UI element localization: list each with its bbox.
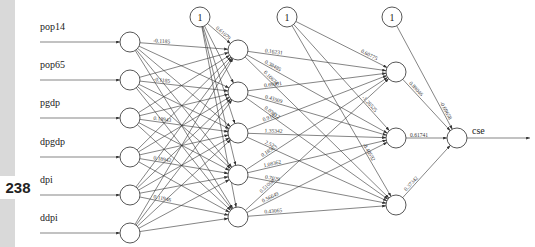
edge-bias2-h21 [294,24,390,130]
input-label-pgdp: pgdp [40,97,60,108]
edge-in2-h11 [140,94,229,115]
hidden1-node-5 [228,207,248,227]
input-label-dpgdp: dpgdp [40,136,65,147]
bias-label: 1 [198,12,203,23]
input-node-dpgdp [120,147,140,167]
edge-in5-h10 [135,59,233,225]
input-node-ddpi [120,223,140,243]
weight-label: 0.89046 [408,80,425,97]
edge-bias2-h20 [296,22,387,68]
hidden1-node-4 [228,165,248,185]
edge-in3-h13 [140,159,228,174]
weight-label: 0.18942 [153,154,172,163]
weight-label: 0.43065 [264,207,283,214]
weight-label: 1.35342 [265,127,283,134]
edge-in3-h10 [137,57,231,150]
weight-label: -1.26525 [361,94,379,113]
hidden2-node-3 [386,195,406,215]
weight-label: -0.1185 [153,37,170,44]
weight-label: 0.18943 [153,115,172,123]
input-label-pop65: pop65 [40,59,65,70]
edge-in4-h14 [140,197,228,215]
bias-label: 1 [390,12,395,23]
output-label: cse [472,125,485,136]
hidden2-node-1 [386,62,406,82]
edge-in1-h13 [138,87,231,169]
neural-network-diagram: 111 pop14pop65pgdpdpgdpdpiddpi-0.1185-0.… [0,0,535,247]
weight-label: 0.61741 [410,132,428,138]
edge-in4-h13 [140,177,228,193]
edge-in3-h12 [140,135,228,155]
output-node-cse [447,128,467,148]
hidden2-node-2 [386,128,406,148]
bias-label: 1 [285,12,290,23]
hidden1-node-2 [228,82,248,102]
edge-in4-h12 [139,138,230,190]
input-node-dpi [120,185,140,205]
edge-bias3-out [397,26,453,129]
hidden1-node-3 [228,123,248,143]
input-node-pop65 [120,70,140,90]
weight-label: 0.60775 [360,48,379,62]
input-label-dpi: dpi [40,174,53,185]
edge-h22-out [403,145,451,197]
hidden1-node-1 [228,40,248,60]
edge-in0-h12 [138,48,231,126]
input-node-pgdp [120,108,140,128]
nodes-layer: 111 [120,7,467,243]
input-label-ddpi: ddpi [40,212,58,223]
edge-in1-h10 [140,53,229,78]
edge-h13-h20 [246,77,387,169]
edge-in4-h11 [137,99,231,188]
edge-in1-h12 [139,84,229,128]
input-node-pop14 [120,32,140,52]
edge-bias1-h12 [203,27,235,124]
labels-layer: pop14pop65pgdpdpgdpdpiddpi-0.1185-0.1185… [40,21,485,223]
weight-label: 0.16231 [265,47,284,55]
edges-layer [40,22,530,233]
weight-label: 0.61079 [215,25,233,41]
input-label-pop14: pop14 [40,21,65,32]
edge-h12-h21 [248,133,386,137]
weight-label: 0.37342 [403,175,420,192]
